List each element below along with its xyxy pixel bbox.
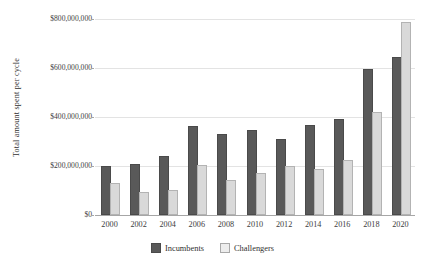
bar-group	[101, 19, 118, 215]
y-tick-mark	[91, 19, 94, 20]
bar-challengers-2008[interactable]	[226, 180, 236, 215]
bar-challengers-2014[interactable]	[314, 169, 324, 215]
legend-label: Incumbents	[165, 244, 204, 253]
y-tick-mark	[91, 68, 94, 69]
x-tick-label: 2018	[357, 219, 386, 230]
x-tick-label: 2002	[124, 219, 153, 230]
bar-group	[188, 19, 205, 215]
bar-challengers-2004[interactable]	[168, 190, 178, 215]
bar-group	[130, 19, 147, 215]
bar-challengers-2020[interactable]	[401, 22, 411, 215]
x-tick-label: 2016	[328, 219, 357, 230]
y-tick-label: $400,000,000	[26, 113, 92, 121]
legend-swatch-challengers-icon	[220, 243, 230, 253]
legend-entry-incumbents[interactable]: Incumbents	[151, 243, 204, 253]
x-tick-label: 2020	[386, 219, 415, 230]
y-tick-label: $600,000,000	[26, 64, 92, 72]
bar-group	[334, 19, 351, 215]
y-tick-mark	[91, 215, 94, 216]
bar-challengers-2018[interactable]	[372, 112, 382, 215]
bar-group	[217, 19, 234, 215]
legend-swatch-incumbents-icon	[151, 243, 161, 253]
y-tick-label: $800,000,000	[26, 15, 92, 23]
bar-challengers-2000[interactable]	[110, 183, 120, 215]
legend-entry-challengers[interactable]: Challengers	[220, 243, 274, 253]
bar-challengers-2002[interactable]	[139, 192, 149, 215]
x-axis-tick-labels: 2000200220042006200820102012201420162018…	[95, 219, 415, 233]
y-axis-title-label: Total amount spent per cycle	[13, 58, 22, 157]
y-tick-mark	[91, 166, 94, 167]
bars-layer	[95, 19, 415, 215]
x-tick-label: 2006	[182, 219, 211, 230]
bar-challengers-2016[interactable]	[343, 160, 353, 215]
y-axis-tick-labels: $0$200,000,000$400,000,000$600,000,000$8…	[22, 0, 92, 270]
bar-challengers-2010[interactable]	[256, 173, 266, 215]
bar-group	[305, 19, 322, 215]
x-tick-label: 2012	[270, 219, 299, 230]
x-tick-label: 2004	[153, 219, 182, 230]
x-tick-label: 2014	[299, 219, 328, 230]
bar-challengers-2006[interactable]	[197, 165, 207, 215]
chart-legend: IncumbentsChallengers	[0, 243, 425, 253]
legend-label: Challengers	[234, 244, 274, 253]
bar-challengers-2012[interactable]	[285, 166, 295, 215]
x-tick-label: 2000	[95, 219, 124, 230]
bar-chart: Total amount spent per cycle $0$200,000,…	[0, 0, 425, 270]
y-tick-label: $0	[26, 211, 92, 219]
plot-area	[95, 19, 415, 215]
x-tick-label: 2010	[240, 219, 269, 230]
bar-group	[276, 19, 293, 215]
bar-group	[247, 19, 264, 215]
y-tick-mark	[91, 117, 94, 118]
bar-group	[159, 19, 176, 215]
axis-baseline	[95, 215, 415, 216]
y-tick-label: $200,000,000	[26, 162, 92, 170]
bar-group	[363, 19, 380, 215]
bar-group	[392, 19, 409, 215]
x-tick-label: 2008	[211, 219, 240, 230]
